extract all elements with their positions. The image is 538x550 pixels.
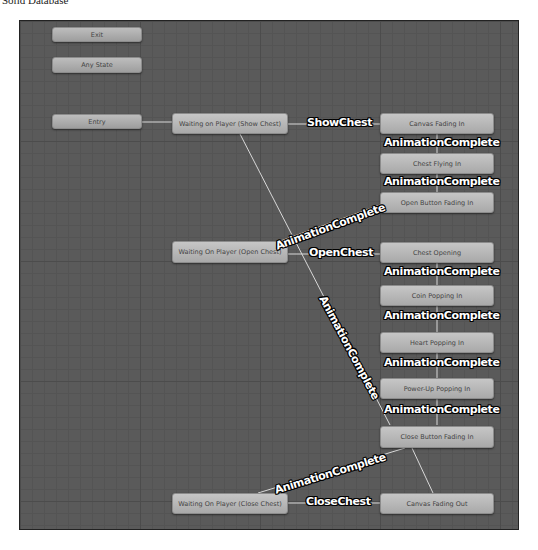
state-label: Power-Up Popping In <box>404 385 471 393</box>
state-chest-flying-in[interactable]: Chest Flying In <box>380 153 494 174</box>
transition-label-animation-complete: AnimationComplete <box>384 356 500 369</box>
state-entry[interactable]: Entry <box>52 114 142 129</box>
state-chest-opening[interactable]: Chest Opening <box>380 242 494 263</box>
transition-label-show-chest: ShowChest <box>307 116 372 129</box>
state-label: Canvas Fading In <box>409 120 464 128</box>
state-waiting-close-chest[interactable]: Waiting On Player (Close Chest) <box>172 493 288 514</box>
state-label: Close Button Fading In <box>400 433 473 441</box>
state-label: Entry <box>88 118 105 126</box>
state-label: Waiting On Player (Close Chest) <box>178 500 282 508</box>
transition-label-animation-complete: AnimationComplete <box>384 265 500 278</box>
transition-label-animation-complete: AnimationComplete <box>384 175 500 188</box>
state-label: Exit <box>91 31 103 39</box>
transition-label-animation-complete: AnimationComplete <box>384 136 500 149</box>
state-heart-popping-in[interactable]: Heart Popping In <box>380 332 494 353</box>
state-label: Canvas Fading Out <box>406 500 467 508</box>
figure-caption: Solid Database <box>2 0 68 6</box>
state-label: Any State <box>81 61 113 69</box>
state-exit[interactable]: Exit <box>52 27 142 42</box>
state-waiting-show-chest[interactable]: Waiting on Player (Show Chest) <box>172 113 288 134</box>
state-label: Coin Popping In <box>412 292 463 300</box>
state-any-state[interactable]: Any State <box>52 57 142 73</box>
state-close-button-fading-in[interactable]: Close Button Fading In <box>380 426 494 448</box>
state-label: Waiting On Player (Open Chest) <box>178 248 281 256</box>
state-open-button-fading-in[interactable]: Open Button Fading In <box>380 192 494 213</box>
state-label: Heart Popping In <box>410 339 464 347</box>
transition-label-animation-complete: AnimationComplete <box>384 309 500 322</box>
state-label: Open Button Fading In <box>401 199 474 207</box>
state-label: Waiting on Player (Show Chest) <box>179 120 281 128</box>
state-coin-popping-in[interactable]: Coin Popping In <box>380 285 494 306</box>
transition-label-open-chest: OpenChest <box>309 246 373 259</box>
transition-label-close-chest: CloseChest <box>306 495 371 508</box>
state-waiting-open-chest[interactable]: Waiting On Player (Open Chest) <box>172 241 288 263</box>
state-canvas-fading-in[interactable]: Canvas Fading In <box>380 113 494 134</box>
state-power-up-popping-in[interactable]: Power-Up Popping In <box>380 378 494 399</box>
state-canvas-fading-out[interactable]: Canvas Fading Out <box>380 493 494 514</box>
transition-label-animation-complete: AnimationComplete <box>384 403 500 416</box>
state-label: Chest Flying In <box>413 160 461 168</box>
state-label: Chest Opening <box>413 249 461 257</box>
